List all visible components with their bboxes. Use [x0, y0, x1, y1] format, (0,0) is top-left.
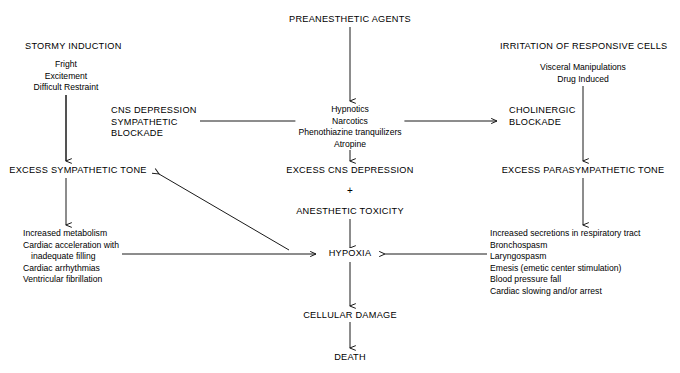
- label-cholinergic: CHOLINERGIC: [506, 105, 579, 117]
- node-hypoxia: HYPOXIA: [326, 248, 375, 260]
- node-anesthetic-toxicity: ANESTHETIC TOXICITY: [293, 206, 407, 218]
- list-item: Emesis (emetic center stimulation): [487, 263, 643, 275]
- list-item: Cardiac acceleration with: [20, 240, 122, 252]
- node-stormy-induction-items: Fright Excitement Difficult Restraint: [31, 59, 102, 94]
- wire-diagonal-hypoxia-to-sympathetic: [159, 174, 289, 250]
- node-preanesthetic-agents: PREANESTHETIC AGENTS: [286, 14, 414, 26]
- list-item: Increased metabolism: [20, 228, 122, 240]
- node-irritation-responsive-cells: IRRITATION OF RESPONSIVE CELLS: [497, 41, 670, 53]
- label-death: DEATH: [331, 352, 369, 362]
- list-item: Ventricular fibrillation: [20, 274, 122, 286]
- list-item: Difficult Restraint: [31, 82, 102, 94]
- list-item: Laryngospasm: [487, 251, 643, 263]
- list-item: Phenothiazine tranquilizers: [295, 127, 404, 139]
- label-cns-depression: CNS DEPRESSION: [108, 105, 200, 117]
- list-item: Fright: [31, 59, 102, 71]
- label-irritation-responsive-cells: IRRITATION OF RESPONSIVE CELLS: [497, 41, 670, 51]
- node-excess-sympathetic-tone: EXCESS SYMPATHETIC TONE: [6, 165, 149, 177]
- node-excess-cns-depression: EXCESS CNS DEPRESSION: [283, 165, 416, 177]
- node-irritation-items: Visceral Manipulations Drug Induced: [537, 62, 629, 85]
- list-item: Excitement: [31, 71, 102, 83]
- list-item: Narcotics: [295, 116, 404, 128]
- plus-sign: +: [347, 185, 353, 196]
- list-item: Visceral Manipulations: [537, 62, 629, 74]
- label-excess-parasympathetic-tone: EXCESS PARASYMPATHETIC TONE: [499, 165, 668, 175]
- label-sympathetic: SYMPATHETIC: [108, 117, 200, 129]
- node-cholinergic-blockade: CHOLINERGIC BLOCKADE: [506, 105, 579, 128]
- node-parasympathetic-effects: Increased secretions in respiratory trac…: [487, 228, 643, 297]
- list-item: Increased secretions in respiratory trac…: [487, 228, 643, 240]
- node-excess-parasympathetic-tone: EXCESS PARASYMPATHETIC TONE: [499, 165, 668, 177]
- flowchart-canvas: PREANESTHETIC AGENTS STORMY INDUCTION Fr…: [0, 0, 680, 373]
- list-item: Hypnotics: [295, 104, 404, 116]
- node-cns-depression-sympathetic-blockade: CNS DEPRESSION SYMPATHETIC BLOCKADE: [108, 105, 200, 140]
- label-anesthetic-toxicity: ANESTHETIC TOXICITY: [293, 206, 407, 216]
- list-item: Cardiac arrhythmias: [20, 263, 122, 275]
- list-item: inadequate filling: [20, 251, 122, 263]
- label-hypoxia: HYPOXIA: [326, 248, 375, 258]
- list-item: Blood pressure fall: [487, 274, 643, 286]
- node-sympathetic-effects: Increased metabolism Cardiac acceleratio…: [20, 228, 122, 286]
- node-death: DEATH: [331, 352, 369, 364]
- list-item: Atropine: [295, 139, 404, 151]
- label-excess-cns-depression: EXCESS CNS DEPRESSION: [283, 165, 416, 175]
- label-blockade: BLOCKADE: [506, 117, 579, 129]
- label-preanesthetic-agents: PREANESTHETIC AGENTS: [286, 14, 414, 24]
- label-blockade: BLOCKADE: [108, 128, 200, 140]
- label-excess-sympathetic-tone: EXCESS SYMPATHETIC TONE: [6, 165, 149, 175]
- label-stormy-induction: STORMY INDUCTION: [22, 41, 125, 51]
- node-agents-list: Hypnotics Narcotics Phenothiazine tranqu…: [295, 104, 404, 150]
- node-cellular-damage: CELLULAR DAMAGE: [300, 310, 400, 322]
- list-item: Cardiac slowing and/or arrest: [487, 286, 643, 298]
- node-stormy-induction: STORMY INDUCTION: [22, 41, 125, 53]
- list-item: Bronchospasm: [487, 240, 643, 252]
- label-cellular-damage: CELLULAR DAMAGE: [300, 310, 400, 320]
- list-item: Drug Induced: [537, 74, 629, 86]
